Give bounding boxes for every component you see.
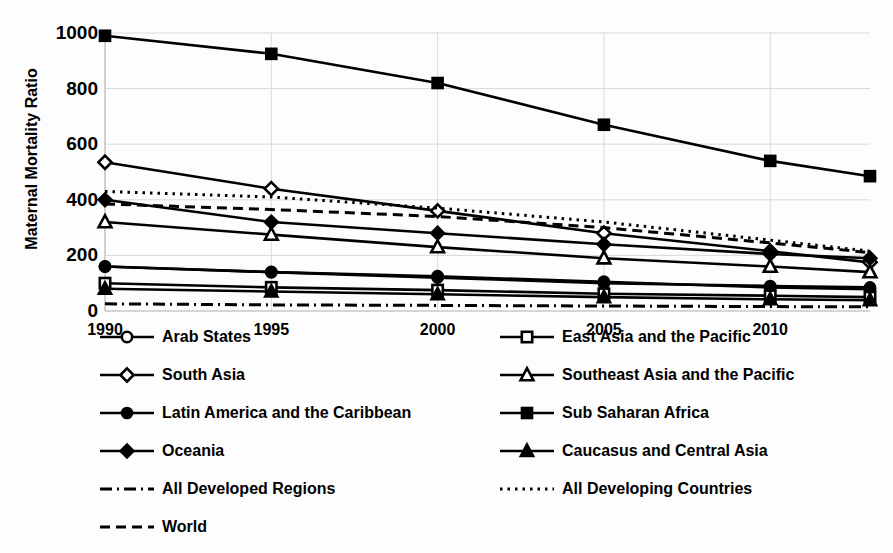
legend-item-all-developing-countries[interactable]: All Developing Countries: [498, 470, 752, 508]
chart-container: Maternal Mortality Ratio 020040060080010…: [0, 0, 893, 553]
legend-swatch: [98, 517, 156, 537]
series-lines: [98, 31, 876, 307]
legend-row: Arab StatesEast Asia and the Pacific: [98, 318, 888, 356]
series-all-developing-countries: [105, 192, 870, 252]
legend-row: South AsiaSoutheast Asia and the Pacific: [98, 356, 888, 394]
legend-swatch: [98, 441, 156, 461]
legend-item-sub-saharan-africa[interactable]: Sub Saharan Africa: [498, 394, 709, 432]
legend-item-label: All Developed Regions: [156, 481, 335, 497]
legend-item-latin-america-and-the-caribbean[interactable]: Latin America and the Caribbean: [98, 394, 411, 432]
legend-item-label: Oceania: [156, 443, 224, 459]
legend-item-label: Sub Saharan Africa: [556, 405, 709, 421]
legend-swatch: [98, 327, 156, 347]
series-southeast-asia-and-the-pacific: [99, 215, 877, 277]
legend-item-caucasus-and-central-asia[interactable]: Caucasus and Central Asia: [498, 432, 768, 470]
legend-item-world[interactable]: World: [98, 508, 207, 546]
series-all-developed-regions: [105, 304, 870, 307]
legend-row: All Developed RegionsAll Developing Coun…: [98, 470, 888, 508]
series-oceania: [98, 193, 876, 265]
legend-item-label: Latin America and the Caribbean: [156, 405, 411, 421]
legend-swatch: [98, 365, 156, 385]
legend-item-label: All Developing Countries: [556, 481, 752, 497]
legend-item-all-developed-regions[interactable]: All Developed Regions: [98, 470, 335, 508]
legend-item-label: Caucasus and Central Asia: [556, 443, 768, 459]
legend-swatch: [498, 327, 556, 347]
legend-swatch: [498, 441, 556, 461]
legend-row: Latin America and the CaribbeanSub Sahar…: [98, 394, 888, 432]
legend-swatch: [98, 479, 156, 499]
legend-item-southeast-asia-and-the-pacific[interactable]: Southeast Asia and the Pacific: [498, 356, 794, 394]
legend-swatch: [98, 403, 156, 423]
chart-legend: Arab StatesEast Asia and the PacificSout…: [98, 318, 888, 546]
legend-swatch: [498, 479, 556, 499]
legend-item-label: East Asia and the Pacific: [556, 329, 751, 345]
legend-item-label: Arab States: [156, 329, 251, 345]
legend-item-arab-states[interactable]: Arab States: [98, 318, 251, 356]
legend-swatch: [498, 403, 556, 423]
legend-item-east-asia-and-the-pacific[interactable]: East Asia and the Pacific: [498, 318, 751, 356]
series-sub-saharan-africa: [100, 31, 875, 182]
legend-row: World: [98, 508, 888, 546]
legend-swatch: [498, 365, 556, 385]
legend-row: OceaniaCaucasus and Central Asia: [98, 432, 888, 470]
legend-item-label: South Asia: [156, 367, 245, 383]
legend-item-oceania[interactable]: Oceania: [98, 432, 224, 470]
legend-item-label: World: [156, 519, 207, 535]
legend-item-label: Southeast Asia and the Pacific: [556, 367, 794, 383]
legend-item-south-asia[interactable]: South Asia: [98, 356, 245, 394]
